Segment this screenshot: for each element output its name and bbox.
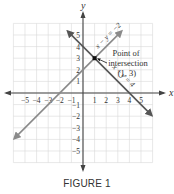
svg-text:−4: −4: [33, 96, 41, 105]
intersection-point: [93, 56, 97, 60]
annotation-intersection: intersection: [108, 58, 148, 68]
y-axis-label: y: [80, 0, 86, 11]
x-axis-label: x: [168, 87, 174, 98]
svg-text:1: 1: [93, 96, 97, 105]
svg-text:−5: −5: [72, 147, 80, 156]
coordinate-plane: xy −5−4−3−2−112345−5−4−3−2−112345 x − y …: [0, 0, 174, 178]
x-axis-left-arrow-icon: [4, 91, 11, 96]
y-axis-up-arrow-icon: [81, 11, 86, 18]
svg-text:−5: −5: [21, 96, 29, 105]
figure-caption: FIGURE 1: [0, 178, 174, 189]
axes: xy: [4, 0, 174, 172]
svg-text:3: 3: [76, 54, 80, 63]
y-axis-down-arrow-icon: [81, 165, 86, 172]
svg-text:−3: −3: [72, 124, 80, 133]
svg-text:3: 3: [116, 96, 120, 105]
svg-text:−2: −2: [56, 96, 64, 105]
x-axis-right-arrow-icon: [159, 91, 166, 96]
svg-text:4: 4: [128, 96, 132, 105]
svg-text:2: 2: [104, 96, 108, 105]
line-2: [69, 33, 150, 114]
annotations: x − y = −2x + y = 4Point ofintersection(…: [92, 20, 148, 88]
svg-text:5: 5: [76, 31, 80, 40]
svg-text:−4: −4: [72, 135, 80, 144]
svg-text:−2: −2: [72, 112, 80, 121]
annotation-point-of: Point of: [112, 48, 139, 58]
svg-text:−1: −1: [72, 101, 80, 110]
annotation-coords: (1, 3): [118, 68, 137, 78]
line-1: [16, 33, 120, 137]
svg-text:1: 1: [76, 77, 80, 86]
